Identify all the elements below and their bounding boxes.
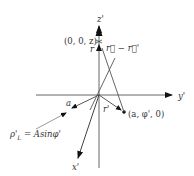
radius-label: a <box>66 98 71 108</box>
annotation-pointer <box>36 113 66 129</box>
x-axis-label: x' <box>72 162 79 172</box>
r-minus-r-prime-label: r⃗ − r⃗' <box>106 43 139 53</box>
rho-symbol: ρ' <box>9 129 17 139</box>
ring-segment <box>90 58 115 110</box>
y-axis-label: y' <box>177 91 185 101</box>
density-annotation: ρ'L = Asinφ' <box>9 129 61 141</box>
coordinate-diagram: z' y' x' (0, 0, z) r r⃗ − r⃗' a r' (a, φ… <box>0 0 194 176</box>
z-axis-label: z' <box>96 14 104 24</box>
density-rhs: = Asinφ' <box>21 129 61 139</box>
ring-point-label: (a, φ', 0) <box>128 109 164 119</box>
r-prime-label: r' <box>103 104 109 114</box>
r-vector-head <box>96 44 102 51</box>
r-minus-r-prime-vector <box>102 48 124 112</box>
x-axis <box>78 95 99 158</box>
